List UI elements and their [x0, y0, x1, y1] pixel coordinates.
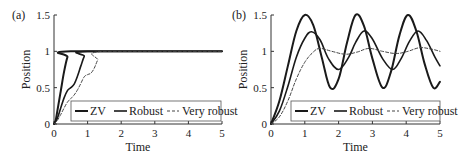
x-tick-label: 2: [118, 127, 124, 139]
legend-label: ZV: [310, 104, 326, 118]
legend: ZVRobustVery robust: [71, 101, 238, 121]
x-tick-label: 3: [152, 127, 158, 139]
chart-figure: 01234500.511.5(a)TimePositionZVRobustVer…: [0, 0, 461, 158]
y-tick-label: 1.5: [36, 9, 50, 21]
y-tick-label: 0: [45, 118, 51, 130]
x-tick-label: 1: [302, 127, 308, 139]
x-tick-label: 2: [336, 127, 342, 139]
legend-label: Very robust: [402, 104, 458, 118]
y-axis-label: Position: [19, 50, 33, 89]
x-tick-label: 0: [268, 127, 274, 139]
y-tick-label: 0: [262, 118, 268, 130]
legend: ZVRobustVery robust: [291, 101, 458, 121]
legend-label: Very robust: [182, 104, 238, 118]
y-tick-label: 1.5: [253, 9, 267, 21]
x-tick-label: 1: [85, 127, 91, 139]
x-tick-label: 0: [51, 127, 57, 139]
x-tick-label: 5: [437, 127, 443, 139]
chart-panel-a: 01234500.511.5(a)TimePositionZVRobustVer…: [12, 8, 238, 154]
x-axis-label: Time: [343, 140, 368, 154]
panel-label: (a): [12, 8, 25, 22]
legend-label: ZV: [90, 104, 106, 118]
panel-label: (b): [232, 8, 246, 22]
y-tick-label: 1: [262, 45, 268, 57]
chart-panel-b: 01234500.511.5(b)TimePositionZVRobustVer…: [232, 8, 458, 154]
x-tick-label: 3: [370, 127, 376, 139]
x-tick-label: 4: [186, 127, 192, 139]
y-axis-label: Position: [236, 50, 250, 89]
y-tick-label: 0.5: [253, 82, 267, 94]
x-axis-label: Time: [126, 140, 151, 154]
legend-label: Robust: [349, 104, 384, 118]
y-tick-label: 0.5: [36, 82, 50, 94]
x-tick-label: 5: [219, 127, 225, 139]
x-tick-label: 4: [403, 127, 409, 139]
legend-label: Robust: [129, 104, 164, 118]
y-tick-label: 1: [45, 45, 51, 57]
